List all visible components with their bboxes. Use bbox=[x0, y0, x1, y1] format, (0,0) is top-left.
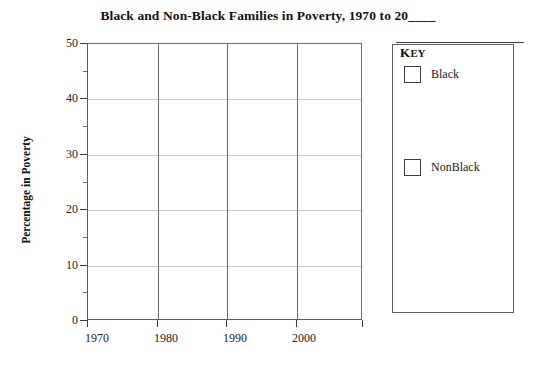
legend-entry-nonblack: NonBlack bbox=[404, 159, 480, 176]
y-axis-title: Percentage in Poverty bbox=[20, 100, 32, 280]
y-tick-label-40: 40 bbox=[18, 91, 78, 106]
x-tick-2000 bbox=[296, 320, 297, 327]
x-tick-1990 bbox=[226, 320, 227, 327]
gridline-horizontal-20 bbox=[88, 210, 361, 211]
gridline-vertical-2000 bbox=[297, 44, 298, 319]
y-tick-minor-15 bbox=[83, 237, 87, 238]
gridline-vertical-1980 bbox=[158, 44, 159, 319]
legend-swatch-black bbox=[404, 66, 421, 83]
y-tick-label-10: 10 bbox=[18, 258, 78, 273]
y-tick-minor-5 bbox=[83, 292, 87, 293]
y-tick-minor-35 bbox=[83, 126, 87, 127]
gridline-horizontal-40 bbox=[88, 99, 361, 100]
gridline-horizontal-30 bbox=[88, 155, 361, 156]
y-tick-20 bbox=[80, 209, 87, 210]
x-tick-label-2000: 2000 bbox=[274, 331, 334, 346]
legend-label-nonblack: NonBlack bbox=[431, 160, 480, 175]
gridline-horizontal-10 bbox=[88, 266, 361, 267]
legend-label-black: Black bbox=[431, 67, 459, 82]
y-tick-50 bbox=[80, 43, 87, 44]
legend-key-underline bbox=[396, 42, 524, 43]
y-tick-10 bbox=[80, 265, 87, 266]
legend-title: KEY bbox=[400, 45, 426, 61]
y-tick-label-50: 50 bbox=[18, 36, 78, 51]
y-tick-0 bbox=[80, 320, 87, 321]
y-tick-minor-45 bbox=[83, 71, 87, 72]
y-tick-minor-25 bbox=[83, 182, 87, 183]
y-tick-30 bbox=[80, 154, 87, 155]
y-tick-label-30: 30 bbox=[18, 147, 78, 162]
x-tick-label-1980: 1980 bbox=[136, 331, 196, 346]
y-tick-label-20: 20 bbox=[18, 202, 78, 217]
chart-title: Black and Non-Black Families in Poverty,… bbox=[0, 8, 536, 24]
x-tick-label-1970: 1970 bbox=[67, 331, 127, 346]
x-tick-1970 bbox=[87, 320, 88, 327]
plot-area bbox=[87, 43, 362, 320]
y-tick-label-0: 0 bbox=[18, 313, 78, 328]
legend-swatch-nonblack bbox=[404, 159, 421, 176]
gridline-vertical-1990 bbox=[227, 44, 228, 319]
legend-box bbox=[392, 44, 514, 313]
y-tick-40 bbox=[80, 98, 87, 99]
legend-entry-black: Black bbox=[404, 66, 459, 83]
x-tick-label-1990: 1990 bbox=[205, 331, 265, 346]
x-tick-1980 bbox=[157, 320, 158, 327]
x-tick-unlabeled-right bbox=[362, 320, 363, 327]
